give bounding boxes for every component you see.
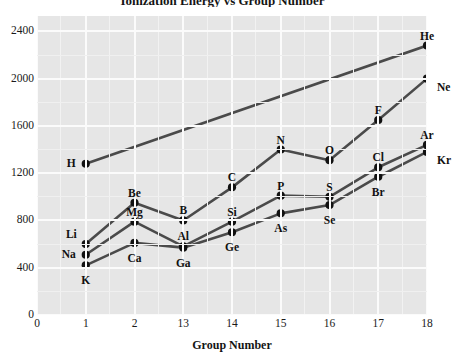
x-axis-tick-label: 16 bbox=[315, 318, 345, 330]
y-axis-tick-label: 2000 bbox=[1, 73, 34, 85]
x-axis-label: Group Number bbox=[37, 338, 427, 353]
gridline-horizontal-minor bbox=[37, 102, 427, 103]
gridline-horizontal bbox=[37, 30, 427, 32]
gridline-horizontal-minor bbox=[37, 244, 427, 245]
gridline-vertical bbox=[377, 16, 379, 315]
gridline-horizontal bbox=[37, 78, 427, 80]
x-axis-tick-label: 2 bbox=[120, 318, 150, 330]
x-axis-tick-label: 15 bbox=[266, 318, 296, 330]
gridline-horizontal-minor bbox=[37, 291, 427, 292]
x-axis-tick-label: 14 bbox=[217, 318, 247, 330]
x-axis-tick-label: 18 bbox=[412, 318, 442, 330]
gridline-horizontal bbox=[37, 314, 427, 315]
gridline-vertical-minor bbox=[353, 16, 354, 315]
gridline-vertical bbox=[37, 16, 38, 315]
y-axis-tick-label: 400 bbox=[1, 262, 34, 274]
gridline-vertical-minor bbox=[60, 16, 61, 315]
gridline-horizontal bbox=[37, 267, 427, 269]
data-point-label: Ne bbox=[437, 82, 456, 94]
gridline-vertical-minor bbox=[304, 16, 305, 315]
gridline-horizontal-minor bbox=[37, 196, 427, 197]
y-axis-tick-label: 1600 bbox=[1, 120, 34, 132]
gridline-horizontal bbox=[37, 125, 427, 127]
gridline-vertical-minor bbox=[207, 16, 208, 315]
x-axis-ticks: 012131415161718 bbox=[37, 318, 427, 334]
gridline-horizontal-minor bbox=[37, 149, 427, 150]
chart-title: Ionization Energy vs Group Number bbox=[0, 0, 445, 7]
gridline-horizontal bbox=[37, 219, 427, 221]
x-axis-tick-label: 13 bbox=[168, 318, 198, 330]
gridline-vertical bbox=[231, 16, 233, 315]
gridline-vertical bbox=[280, 16, 282, 315]
gridline-vertical-minor bbox=[255, 16, 256, 315]
y-axis-tick-label: 2400 bbox=[1, 25, 34, 37]
gridline-horizontal bbox=[37, 172, 427, 174]
x-axis-tick-label: 0 bbox=[22, 318, 52, 330]
gridline-vertical bbox=[426, 16, 427, 315]
x-axis-tick-label: 1 bbox=[71, 318, 101, 330]
gridline-vertical bbox=[182, 16, 184, 315]
plot-area bbox=[37, 16, 427, 315]
y-axis-tick-label: 1200 bbox=[1, 167, 34, 179]
x-axis-tick-label: 17 bbox=[363, 318, 393, 330]
gridline-vertical bbox=[134, 16, 136, 315]
series-line bbox=[86, 46, 427, 164]
gridline-vertical bbox=[85, 16, 87, 315]
gridline-vertical-minor bbox=[158, 16, 159, 315]
y-axis-ticks: 04008001200160020002400 bbox=[0, 16, 34, 315]
gridline-vertical bbox=[329, 16, 331, 315]
gridline-vertical-minor bbox=[109, 16, 110, 315]
gridline-horizontal-minor bbox=[37, 55, 427, 56]
gridline-vertical-minor bbox=[402, 16, 403, 315]
data-point-label: Kr bbox=[437, 155, 456, 167]
y-axis-tick-label: 800 bbox=[1, 214, 34, 226]
